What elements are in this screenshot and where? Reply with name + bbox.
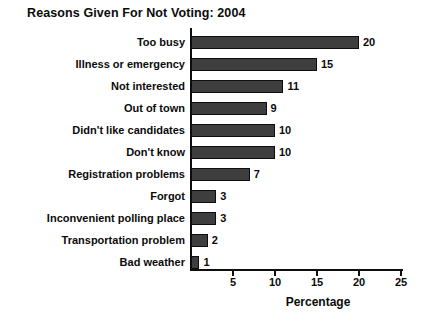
x-axis-tick-label: 20: [344, 276, 374, 288]
x-axis-line: [190, 269, 403, 271]
category-label: Illness or emergency: [0, 58, 191, 70]
category-label: Registration problems: [0, 168, 191, 180]
bar: [191, 146, 275, 159]
bar-area: 11: [191, 75, 435, 97]
bar-row: Don't know10: [0, 141, 435, 163]
bar: [191, 36, 359, 49]
bar: [191, 168, 250, 181]
bar: [191, 190, 216, 203]
bar-value-label: 10: [279, 124, 291, 136]
bar-row: Too busy20: [0, 31, 435, 53]
bar-value-label: 3: [220, 190, 226, 202]
bar-rows: Too busy20Illness or emergency15Not inte…: [0, 31, 435, 273]
bar-value-label: 10: [279, 146, 291, 158]
bar: [191, 256, 199, 269]
chart-title: Reasons Given For Not Voting: 2004: [27, 6, 246, 20]
category-label: Didn't like candidates: [0, 124, 191, 136]
bar: [191, 80, 283, 93]
category-label: Transportation problem: [0, 234, 191, 246]
bar-value-label: 1: [203, 256, 209, 268]
category-label: Not interested: [0, 80, 191, 92]
category-label: Out of town: [0, 102, 191, 114]
bar-area: 15: [191, 53, 435, 75]
category-label: Too busy: [0, 36, 191, 48]
category-label: Inconvenient polling place: [0, 212, 191, 224]
x-axis-tick-label: 10: [260, 276, 290, 288]
bar-value-label: 2: [212, 234, 218, 246]
bar-value-label: 15: [321, 58, 333, 70]
bar-value-label: 11: [287, 80, 299, 92]
bar-chart-figure: Reasons Given For Not Voting: 2004 Too b…: [0, 0, 435, 323]
category-label: Forgot: [0, 190, 191, 202]
bar-area: 3: [191, 207, 435, 229]
bar-row: Inconvenient polling place3: [0, 207, 435, 229]
bar-area: 10: [191, 141, 435, 163]
bar: [191, 234, 208, 247]
category-label: Don't know: [0, 146, 191, 158]
bar-row: Not interested11: [0, 75, 435, 97]
x-axis-tick-label: 5: [218, 276, 248, 288]
bar-value-label: 7: [254, 168, 260, 180]
x-axis-tick-label: 25: [386, 276, 416, 288]
bar-row: Didn't like candidates10: [0, 119, 435, 141]
bar-row: Out of town9: [0, 97, 435, 119]
bar: [191, 58, 317, 71]
y-axis-line: [190, 28, 192, 271]
bar-area: 3: [191, 185, 435, 207]
bar: [191, 212, 216, 225]
bar-value-label: 20: [363, 36, 375, 48]
bar-row: Registration problems7: [0, 163, 435, 185]
bar: [191, 124, 275, 137]
bar-area: 20: [191, 31, 435, 53]
bar-area: 9: [191, 97, 435, 119]
bar-row: Forgot3: [0, 185, 435, 207]
bar-area: 7: [191, 163, 435, 185]
x-axis-label: Percentage: [231, 295, 405, 309]
bar-value-label: 3: [220, 212, 226, 224]
bar: [191, 102, 267, 115]
category-label: Bad weather: [0, 256, 191, 268]
bar-area: 10: [191, 119, 435, 141]
x-axis-tick-label: 15: [302, 276, 332, 288]
bar-value-label: 9: [271, 102, 277, 114]
bar-area: 2: [191, 229, 435, 251]
bar-row: Transportation problem2: [0, 229, 435, 251]
bar-row: Illness or emergency15: [0, 53, 435, 75]
